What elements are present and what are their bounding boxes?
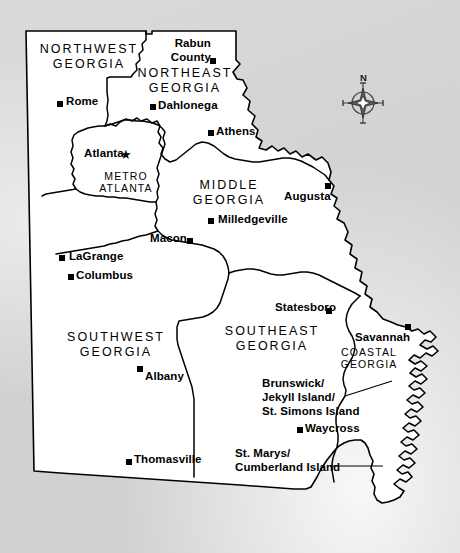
city-marker-albany xyxy=(137,366,143,372)
city-marker-atlanta-capital-star: ★ xyxy=(120,148,132,161)
city-marker-waycross xyxy=(297,427,303,433)
city-marker-lagrange xyxy=(59,255,65,261)
city-marker-thomasville xyxy=(126,459,132,465)
city-marker-statesboro xyxy=(326,308,332,314)
city-marker-athens xyxy=(208,130,214,136)
city-marker-rome xyxy=(57,101,63,107)
city-marker-augusta xyxy=(325,183,331,189)
georgia-regions-map: N NORTHWEST GEORGIA NORTHEAST GEORGIA ME… xyxy=(0,0,460,553)
compass-north-label: N xyxy=(360,72,367,83)
city-marker-milledgeville xyxy=(208,218,214,224)
city-marker-dahlonega xyxy=(150,104,156,110)
compass-rose-icon xyxy=(343,83,383,123)
city-marker-macon xyxy=(187,238,193,244)
city-marker-rabun-county xyxy=(210,58,216,64)
city-marker-columbus xyxy=(68,274,74,280)
state-outline-georgia xyxy=(26,31,438,503)
city-marker-savannah xyxy=(405,324,411,330)
